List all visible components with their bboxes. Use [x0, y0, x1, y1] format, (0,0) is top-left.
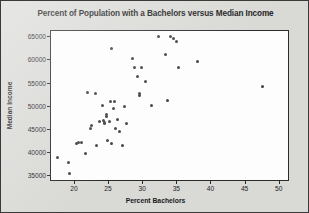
- scatter-point: [140, 66, 143, 69]
- scatter-point: [98, 120, 101, 123]
- scatter-point: [175, 40, 178, 43]
- chart-figure: Percent of Population with a Bachelors v…: [0, 0, 309, 213]
- x-tick-label: 45: [233, 185, 257, 192]
- scatter-point: [261, 85, 264, 88]
- scatter-point: [106, 139, 109, 142]
- scatter-point: [121, 144, 124, 147]
- x-tick-mark: [108, 181, 109, 184]
- scatter-point: [150, 104, 153, 107]
- scatter-point: [157, 35, 160, 38]
- scatter-point: [110, 142, 113, 145]
- scatter-point: [68, 172, 71, 175]
- scatter-point: [116, 118, 119, 121]
- scatter-point: [90, 124, 93, 127]
- scatter-point: [84, 152, 87, 155]
- plot-area: [50, 30, 289, 181]
- scatter-point: [110, 47, 113, 50]
- scatter-point: [133, 66, 136, 69]
- scatter-point: [108, 120, 111, 123]
- scatter-point: [103, 122, 106, 125]
- scatter-points-layer: [51, 31, 288, 180]
- scatter-point: [138, 92, 141, 95]
- scatter-point: [136, 75, 139, 78]
- x-tick-label: 30: [130, 185, 154, 192]
- scatter-point: [105, 115, 108, 118]
- scatter-point: [94, 92, 97, 95]
- x-tick-label: 40: [198, 185, 222, 192]
- x-tick-mark: [142, 181, 143, 184]
- x-tick-mark: [176, 181, 177, 184]
- x-tick-label: 20: [62, 185, 86, 192]
- scatter-point: [125, 122, 128, 125]
- scatter-point: [177, 66, 180, 69]
- x-axis-label: Percent Bachelors: [1, 197, 309, 204]
- scatter-point: [56, 156, 59, 159]
- scatter-point: [89, 127, 92, 130]
- scatter-point: [80, 141, 83, 144]
- scatter-point: [144, 80, 147, 83]
- scatter-point: [166, 99, 169, 102]
- x-tick-mark: [210, 181, 211, 184]
- x-tick-mark: [74, 181, 75, 184]
- scatter-point: [164, 53, 167, 56]
- scatter-point: [196, 60, 199, 63]
- scatter-point: [123, 105, 126, 108]
- scatter-point: [113, 100, 116, 103]
- x-tick-mark: [245, 181, 246, 184]
- y-axis-label: Median Income: [6, 65, 13, 145]
- scatter-point: [95, 144, 98, 147]
- scatter-point: [112, 107, 115, 110]
- x-tick-label: 25: [96, 185, 120, 192]
- scatter-point: [86, 91, 89, 94]
- scatter-point: [114, 127, 117, 130]
- x-tick-label: 35: [164, 185, 188, 192]
- scatter-point: [67, 161, 70, 164]
- x-tick-mark: [279, 181, 280, 184]
- scatter-point: [131, 57, 134, 60]
- scatter-point: [101, 104, 104, 107]
- scatter-point: [109, 100, 112, 103]
- x-tick-label: 50: [267, 185, 291, 192]
- scatter-point: [118, 130, 121, 133]
